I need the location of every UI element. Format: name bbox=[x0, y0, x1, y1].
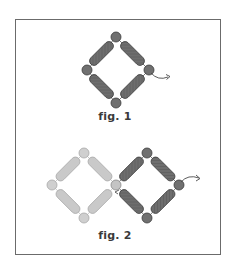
fig1-round-beads bbox=[82, 32, 154, 108]
figure-1-caption: fig. 1 bbox=[0, 110, 230, 123]
beading-diagram bbox=[0, 0, 230, 268]
fig1-diamond bbox=[82, 32, 170, 108]
fig1-bugle-beads bbox=[88, 40, 147, 101]
figure-2-caption: fig. 2 bbox=[0, 229, 230, 242]
thread-exit-arrow-icon bbox=[181, 175, 200, 182]
fig2-light-diamond bbox=[47, 148, 116, 223]
thread-exit-arrow-icon bbox=[151, 73, 170, 80]
shared-round-bead bbox=[111, 180, 121, 190]
fig2-dark-diamond bbox=[111, 148, 200, 223]
